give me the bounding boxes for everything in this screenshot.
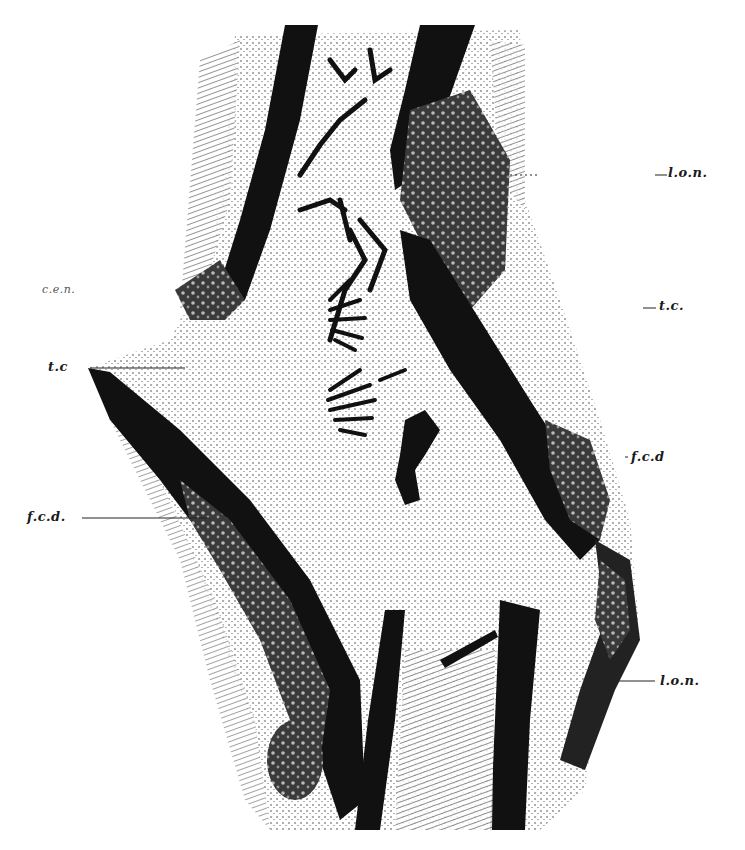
- figure-illustration: l.o.n. t.c. f.c.d l.o.n. c.e.n. t.c f.c.…: [0, 0, 745, 850]
- label-f-c-d-right: f.c.d: [631, 449, 665, 464]
- label-l-o-n-bottom: l.o.n.: [660, 673, 699, 688]
- label-t-c-left: t.c: [48, 359, 68, 374]
- label-l-o-n-top: l.o.n.: [668, 165, 707, 180]
- label-c-e-n: c.e.n.: [42, 283, 75, 296]
- label-f-c-d-left: f.c.d.: [27, 509, 66, 524]
- label-t-c-right: t.c.: [659, 298, 684, 313]
- bone-section-drawing: [0, 0, 745, 850]
